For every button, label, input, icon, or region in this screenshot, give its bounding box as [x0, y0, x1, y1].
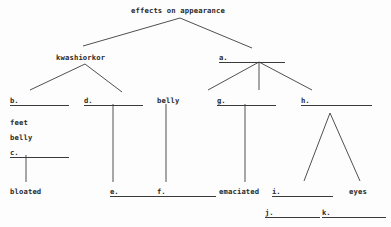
blank-a-tag: a.: [219, 53, 228, 63]
edge-root-to-kwashiorkor: [83, 18, 180, 46]
blank-j-tag: j.: [265, 208, 274, 218]
node-feet: feet: [10, 118, 28, 127]
blank-f[interactable]: f.: [157, 187, 216, 197]
edge-kwashiorkor-to-d: [85, 64, 122, 92]
edge-a-to-h: [259, 62, 312, 90]
node-bloated: bloated: [10, 187, 41, 196]
blank-a[interactable]: a.: [219, 53, 285, 63]
blank-j-rule[interactable]: [274, 209, 320, 218]
blank-c-tag: c.: [10, 148, 19, 158]
blank-d-rule[interactable]: [93, 97, 143, 106]
blank-d-tag: d.: [84, 96, 93, 106]
edge-a-to-g: [208, 62, 259, 90]
edge-h-to-i: [304, 113, 330, 181]
blank-c-rule[interactable]: [19, 149, 69, 158]
blank-h-rule[interactable]: [310, 97, 372, 106]
blank-k-rule[interactable]: [331, 209, 386, 218]
blank-k-tag: k.: [322, 208, 331, 218]
blank-g[interactable]: g.: [217, 96, 276, 106]
node-root: effects on appearance: [131, 6, 225, 15]
blank-i[interactable]: i.: [272, 187, 333, 197]
blank-b[interactable]: b.: [10, 96, 69, 106]
blank-f-rule[interactable]: [166, 188, 216, 197]
blank-h[interactable]: h.: [301, 96, 372, 106]
blank-g-tag: g.: [217, 96, 226, 106]
node-eyes: eyes: [349, 187, 367, 196]
edge-h-to-eyes: [330, 113, 360, 181]
blank-g-rule[interactable]: [226, 97, 276, 106]
blank-a-rule[interactable]: [228, 54, 285, 63]
edge-kwashiorkor-to-b: [30, 64, 85, 90]
blank-h-tag: h.: [301, 96, 310, 106]
node-belly-middle: belly: [157, 96, 179, 105]
blank-i-rule[interactable]: [281, 188, 333, 197]
blank-b-tag: b.: [10, 96, 19, 106]
diagram-canvas: effects on appearance kwashiorkor a. b. …: [0, 0, 391, 227]
blank-b-rule[interactable]: [19, 97, 69, 106]
blank-d[interactable]: d.: [84, 96, 143, 106]
node-kwashiorkor: kwashiorkor: [56, 53, 105, 62]
node-emaciated: emaciated: [219, 187, 259, 196]
blank-i-tag: i.: [272, 187, 281, 197]
blank-k[interactable]: k.: [322, 208, 386, 218]
edge-root-to-a: [180, 18, 252, 48]
blank-e-tag: e.: [110, 187, 119, 197]
blank-f-tag: f.: [157, 187, 166, 197]
node-belly-left: belly: [10, 133, 32, 142]
blank-j[interactable]: j.: [265, 208, 320, 218]
blank-c[interactable]: c.: [10, 148, 69, 158]
